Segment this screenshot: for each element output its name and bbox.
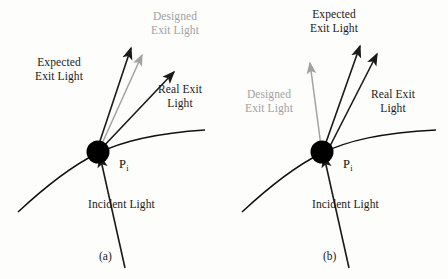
designed-exit-light-label: Designed Exit Light — [232, 88, 306, 115]
designed-exit-light-label: Designed Exit Light — [138, 10, 212, 37]
incident-light-label: Incident Light — [88, 198, 155, 212]
surface-point-marker — [311, 141, 334, 164]
exit-light-figure: Expected Exit Light Designed Exit Light … — [0, 0, 448, 279]
panel-b-caption: (b) — [323, 250, 336, 262]
expected-exit-light-label: Expected Exit Light — [297, 8, 371, 35]
real-exit-light-label: Real Exit Light — [147, 83, 213, 110]
real-exit-light-label: Real Exit Light — [360, 88, 426, 115]
surface-point-marker — [87, 141, 110, 164]
panel-a: Expected Exit Light Designed Exit Light … — [0, 0, 224, 279]
point-subscript: i — [126, 163, 128, 173]
designed-exit-light-arrow — [310, 63, 321, 146]
expected-exit-light-label: Expected Exit Light — [22, 56, 96, 83]
point-label: Pi — [343, 157, 352, 172]
expected-exit-light-arrow — [98, 48, 131, 147]
incident-light-label: Incident Light — [312, 198, 379, 212]
panel-a-graphics — [0, 0, 224, 279]
point-label: Pi — [119, 157, 128, 172]
designed-exit-light-arrow — [100, 55, 142, 148]
panel-b-graphics — [224, 0, 448, 279]
panel-b: Expected Exit Light Designed Exit Light … — [224, 0, 448, 279]
point-subscript: i — [350, 163, 352, 173]
panel-a-caption: (a) — [99, 250, 112, 262]
